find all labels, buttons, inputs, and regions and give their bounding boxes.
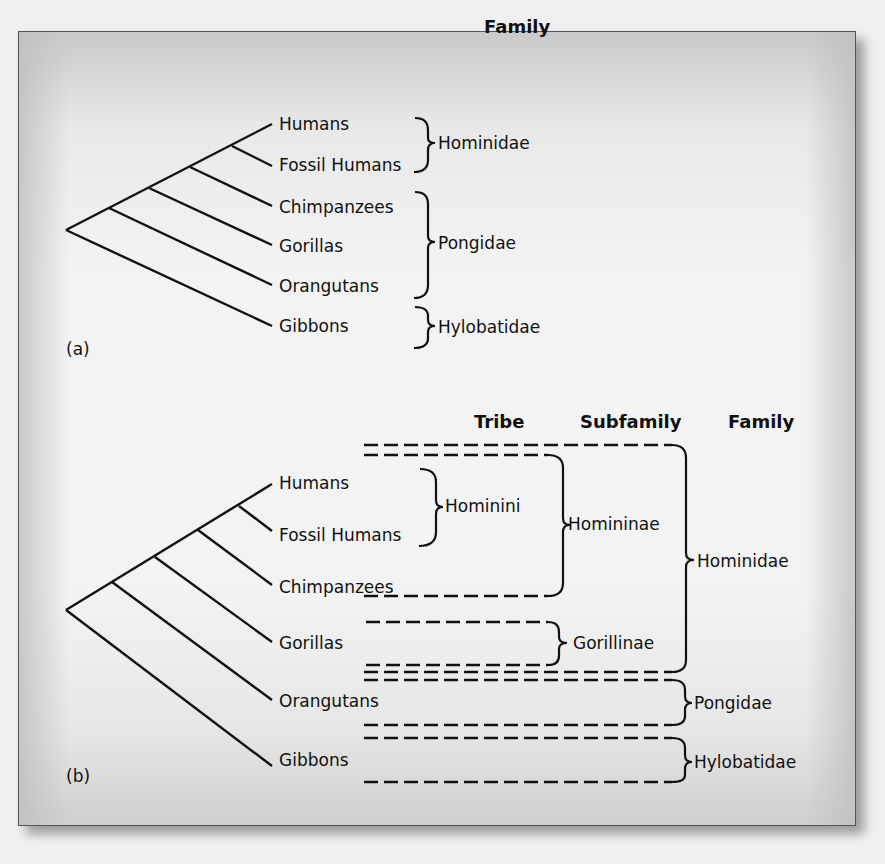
subfamily-homininae: Homininae — [568, 514, 660, 534]
taxon-fossil-humans-b: Fossil Humans — [279, 525, 401, 545]
taxon-humans-a: Humans — [279, 114, 349, 134]
taxon-orangutans-a: Orangutans — [279, 276, 379, 296]
brace-gorillinae — [548, 622, 567, 665]
panel-label-a: (a) — [66, 339, 90, 359]
header-subfamily: Subfamily — [580, 411, 682, 432]
family-pongidae-b: Pongidae — [694, 693, 772, 713]
header-family-b: Family — [728, 411, 794, 432]
cladogram-b: Tribe Subfamily Family Humans Fossil Hum… — [66, 411, 796, 786]
taxon-fossil-humans-a: Fossil Humans — [279, 155, 401, 175]
branch-humans-b — [66, 484, 272, 610]
branch-humans-a — [66, 124, 272, 230]
cladogram-a: Family Humans Fossil Humans Chimpanzees … — [66, 16, 550, 359]
branch-fossil-humans-b — [239, 506, 272, 531]
family-pongidae-a: Pongidae — [438, 233, 516, 253]
brace-pongidae-b — [672, 680, 692, 725]
brace-hominidae-a — [414, 118, 435, 172]
taxon-gorillas-b: Gorillas — [279, 633, 343, 653]
family-hylobatidae-a: Hylobatidae — [438, 317, 540, 337]
brace-pongidae-a — [414, 192, 435, 298]
cladogram-figure: Family Humans Fossil Humans Chimpanzees … — [0, 0, 885, 864]
taxon-humans-b: Humans — [279, 473, 349, 493]
brace-hylobatidae-b — [672, 738, 692, 782]
taxon-chimpanzees-a: Chimpanzees — [279, 197, 394, 217]
branch-chimpanzees-b — [198, 530, 272, 585]
branch-gibbons-a — [66, 230, 272, 326]
branch-orangutans-a — [109, 208, 272, 285]
branch-orangutans-b — [112, 582, 272, 700]
family-hylobatidae-b: Hylobatidae — [694, 752, 796, 772]
branch-fossil-humans-a — [232, 146, 272, 166]
brace-homininae — [548, 455, 570, 596]
brace-hominini — [419, 469, 443, 546]
subfamily-gorillinae: Gorillinae — [573, 633, 654, 653]
taxon-orangutans-b: Orangutans — [279, 691, 379, 711]
tribe-hominini: Hominini — [445, 496, 520, 516]
family-hominidae-a: Hominidae — [438, 133, 530, 153]
panel-label-b: (b) — [66, 766, 90, 786]
branch-chimpanzees-a — [190, 167, 272, 206]
family-hominidae-b: Hominidae — [697, 551, 789, 571]
taxon-gibbons-a: Gibbons — [279, 316, 349, 336]
branch-gorillas-b — [155, 557, 272, 642]
header-tribe: Tribe — [474, 411, 524, 432]
header-family-a: Family — [484, 16, 550, 37]
taxon-chimpanzees-b: Chimpanzees — [279, 577, 394, 597]
taxon-gorillas-a: Gorillas — [279, 236, 343, 256]
taxon-gibbons-b: Gibbons — [279, 750, 349, 770]
branch-gibbons-b — [66, 610, 272, 766]
brace-hominidae-b — [672, 445, 694, 672]
brace-hylobatidae-a — [414, 307, 435, 348]
